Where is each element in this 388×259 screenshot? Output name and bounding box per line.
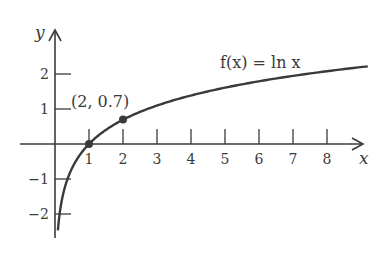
x-tick-label: 7: [289, 151, 298, 167]
y-tick-label: −1: [28, 171, 49, 187]
y-tick-label: 2: [40, 66, 49, 82]
marked-points: [85, 116, 127, 149]
x-ticks: 12345678: [85, 129, 332, 167]
x-tick-label: 1: [85, 151, 94, 167]
function-label: f(x) = ln x: [220, 53, 301, 72]
y-tick-label: 1: [40, 101, 49, 117]
x-tick-label: 3: [153, 151, 162, 167]
x-tick-label: 8: [323, 151, 332, 167]
x-axis-label: x: [359, 148, 369, 168]
y-tick-label: −2: [28, 206, 49, 222]
x-tick-label: 4: [187, 151, 196, 167]
y-axis-label: y: [34, 22, 45, 42]
ln-curve: [58, 66, 368, 230]
point-marker: [85, 140, 93, 148]
x-tick-label: 2: [119, 151, 128, 167]
point-annotation: (2, 0.7): [71, 92, 129, 111]
x-tick-label: 5: [221, 151, 230, 167]
point-marker: [119, 116, 127, 124]
x-tick-label: 6: [255, 151, 264, 167]
ln-graph: 12345678 21−1−2 x y (2, 0.7) f(x) = ln x: [0, 0, 388, 259]
